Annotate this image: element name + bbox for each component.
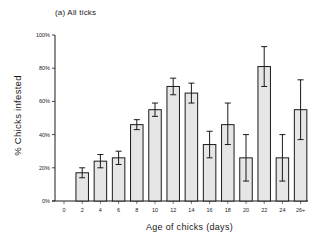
x-tick-label: 20 — [243, 207, 249, 213]
x-tick-label: 26+ — [296, 207, 305, 213]
bar — [185, 93, 198, 201]
y-tick-label: 20% — [39, 165, 50, 171]
x-tick-label: 12 — [170, 207, 176, 213]
x-tick-label: 14 — [188, 207, 194, 213]
x-tick-label: 0 — [62, 207, 65, 213]
y-tick-label: 60% — [39, 98, 50, 104]
x-tick-label: 22 — [261, 207, 267, 213]
x-tick-label: 24 — [279, 207, 285, 213]
x-tick-label: 2 — [81, 207, 84, 213]
y-tick-label: 0% — [42, 198, 50, 204]
bar — [131, 125, 144, 201]
x-tick-label: 18 — [225, 207, 231, 213]
x-tick-label: 6 — [117, 207, 120, 213]
y-tick-label: 80% — [39, 65, 50, 71]
x-tick-label: 4 — [99, 207, 102, 213]
chart: (a) All ticks % Chicks infested Age of c… — [0, 0, 327, 250]
x-tick-label: 8 — [135, 207, 138, 213]
x-tick-label: 10 — [152, 207, 158, 213]
y-tick-label: 40% — [39, 132, 50, 138]
x-tick-label: 16 — [207, 207, 213, 213]
bar — [149, 110, 162, 201]
y-tick-label: 100% — [36, 32, 50, 38]
plot-area: 0%20%40%60%80%100%0246810121416182022242… — [0, 0, 327, 250]
bar — [167, 86, 180, 201]
